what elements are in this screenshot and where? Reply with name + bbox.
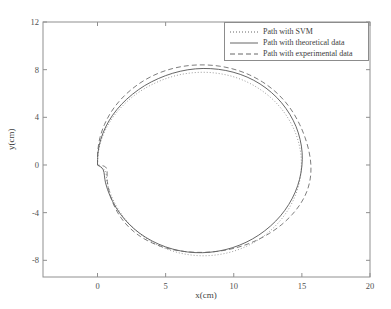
legend-entry: Path with experimental data [229,48,364,59]
legend-line-sample-dotted [229,27,259,37]
chart-figure: 05101520 12840-4-8 x(cm) y(cm) Path with… [0,0,391,309]
y-tick-label: 4 [20,112,39,122]
series-path-2 [98,68,303,252]
x-tick-label: 5 [164,281,168,291]
legend-label: Path with SVM [263,27,313,37]
data-series-layer [97,65,310,256]
legend-line-sample-dashed [229,49,259,59]
y-tick-label: -4 [20,208,39,218]
y-tick-label: 8 [20,65,39,75]
x-tick-label: 10 [230,281,239,291]
legend-entry: Path with theoretical data [229,37,364,48]
y-tick-label: -8 [20,255,39,265]
x-tick-label: 20 [366,281,375,291]
legend-label: Path with theoretical data [263,38,345,48]
legend-entry: Path with SVM [229,26,364,37]
x-tick-label: 15 [298,281,307,291]
legend-label: Path with experimental data [263,49,353,59]
legend-line-sample-solid [229,38,259,48]
y-tick-label: 0 [20,160,39,170]
x-tick-label: 0 [95,281,99,291]
y-axis-label: y(cm) [6,129,16,151]
y-tick-label: 12 [20,17,39,27]
x-axis-label: x(cm) [195,290,217,300]
legend-box: Path with SVMPath with theoretical dataP… [224,22,369,61]
series-path-1 [98,72,302,256]
